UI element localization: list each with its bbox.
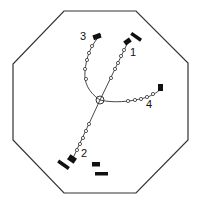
label-3: 3 xyxy=(80,31,86,42)
diagram-canvas xyxy=(0,0,200,201)
block-2a xyxy=(67,154,77,164)
branch-3 xyxy=(83,33,101,100)
block-1a xyxy=(123,37,132,45)
branch-2 xyxy=(57,100,108,176)
block-3 xyxy=(92,33,101,40)
label-1: 1 xyxy=(130,47,136,58)
block-2d xyxy=(95,172,108,176)
label-4: 4 xyxy=(146,99,152,110)
octagon-boundary xyxy=(13,11,188,193)
branch-1 xyxy=(100,32,142,100)
label-2: 2 xyxy=(81,148,87,159)
block-1b xyxy=(130,32,142,42)
branch-4 xyxy=(100,84,163,103)
block-2c xyxy=(92,162,100,167)
block-2b xyxy=(57,160,70,170)
block-4 xyxy=(158,84,163,91)
